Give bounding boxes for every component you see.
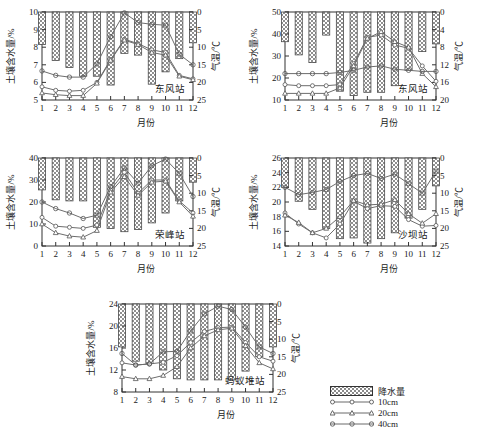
svg-text:1: 1 (40, 249, 45, 259)
svg-text:5: 5 (95, 103, 100, 113)
svg-text:月份: 月份 (137, 263, 155, 274)
svg-text:2: 2 (133, 395, 138, 405)
svg-text:3: 3 (67, 249, 72, 259)
svg-text:7: 7 (122, 103, 127, 113)
legend-item-precipitation: 降水量 (330, 386, 480, 396)
svg-text:9: 9 (150, 103, 155, 113)
svg-text:土壤含水量/%: 土壤含水量/% (248, 174, 259, 230)
svg-text:气温/℃: 气温/℃ (453, 187, 464, 217)
svg-text:8: 8 (136, 103, 141, 113)
svg-text:10: 10 (404, 103, 414, 113)
svg-text:25: 25 (197, 95, 207, 105)
svg-text:10: 10 (272, 95, 282, 105)
svg-text:东风站: 东风站 (398, 83, 428, 94)
svg-text:9: 9 (393, 249, 398, 259)
triangle-marker-line-icon (330, 408, 374, 418)
svg-text:12: 12 (109, 365, 118, 375)
svg-text:1: 1 (120, 395, 125, 405)
svg-text:气温/℃: 气温/℃ (290, 333, 301, 363)
svg-text:4: 4 (324, 103, 329, 113)
svg-text:30: 30 (272, 51, 282, 61)
legend-item-10cm: 10cm (330, 397, 480, 407)
svg-text:月份: 月份 (137, 117, 155, 128)
svg-text:16: 16 (440, 77, 450, 87)
svg-text:14: 14 (272, 241, 282, 251)
svg-text:8: 8 (440, 42, 445, 52)
svg-text:2: 2 (296, 249, 301, 259)
svg-text:5: 5 (338, 249, 343, 259)
svg-text:5: 5 (338, 103, 343, 113)
svg-text:月份: 月份 (380, 117, 398, 128)
svg-text:12: 12 (189, 103, 198, 113)
svg-text:24: 24 (109, 299, 119, 309)
svg-text:10: 10 (29, 219, 39, 229)
svg-text:10: 10 (161, 103, 171, 113)
svg-text:20: 20 (440, 223, 450, 233)
subplot-rongfeng: 0102030400510152025123456789101112土壤含水量/… (0, 146, 240, 292)
svg-text:0: 0 (34, 241, 39, 251)
svg-text:7: 7 (365, 103, 370, 113)
svg-text:2: 2 (53, 249, 58, 259)
svg-text:2: 2 (296, 103, 301, 113)
svg-text:9: 9 (34, 25, 39, 35)
svg-text:气温/℃: 气温/℃ (210, 41, 221, 71)
svg-text:20: 20 (272, 197, 282, 207)
svg-text:7: 7 (122, 249, 127, 259)
svg-text:12: 12 (269, 395, 278, 405)
svg-text:6: 6 (188, 395, 193, 405)
svg-text:25: 25 (277, 387, 287, 397)
svg-text:8: 8 (379, 103, 384, 113)
svg-text:4: 4 (440, 25, 445, 35)
svg-text:16: 16 (109, 343, 119, 353)
svg-text:沙坝站: 沙坝站 (398, 229, 428, 240)
subplot-dongfeng-1: 56789100510152025123456789101112土壤含水量/%气… (0, 0, 240, 146)
svg-text:11: 11 (175, 249, 184, 259)
svg-text:10: 10 (29, 7, 39, 17)
legend-label-precipitation: 降水量 (378, 385, 405, 398)
svg-text:0: 0 (197, 7, 202, 17)
svg-text:15: 15 (197, 206, 207, 216)
svg-text:0: 0 (440, 153, 445, 163)
svg-text:12: 12 (432, 249, 441, 259)
svg-text:6: 6 (34, 77, 39, 87)
svg-text:40: 40 (29, 153, 39, 163)
hatched-bar-swatch-icon (330, 386, 374, 397)
svg-text:5: 5 (95, 249, 100, 259)
svg-text:9: 9 (393, 103, 398, 113)
legend-label-20cm: 20cm (378, 408, 398, 418)
svg-text:5: 5 (197, 171, 202, 181)
svg-text:16: 16 (272, 226, 282, 236)
svg-text:8: 8 (216, 395, 221, 405)
svg-text:12: 12 (189, 249, 198, 259)
svg-text:2: 2 (53, 103, 58, 113)
svg-text:20: 20 (197, 223, 207, 233)
svg-text:6: 6 (108, 249, 113, 259)
svg-text:15: 15 (440, 206, 450, 216)
svg-text:20: 20 (197, 77, 207, 87)
svg-text:20: 20 (440, 95, 450, 105)
svg-text:1: 1 (283, 103, 288, 113)
svg-text:8: 8 (136, 249, 141, 259)
svg-text:9: 9 (150, 249, 155, 259)
svg-text:气温/℃: 气温/℃ (453, 41, 464, 71)
svg-text:50: 50 (272, 7, 282, 17)
svg-text:3: 3 (310, 249, 315, 259)
svg-text:10: 10 (197, 188, 207, 198)
svg-text:10: 10 (440, 188, 450, 198)
svg-text:20: 20 (29, 197, 39, 207)
svg-text:5: 5 (277, 317, 282, 327)
legend-label-10cm: 10cm (378, 397, 398, 407)
svg-text:12: 12 (432, 103, 441, 113)
svg-text:20: 20 (109, 321, 119, 331)
svg-text:8: 8 (379, 249, 384, 259)
svg-text:20: 20 (272, 73, 282, 83)
svg-text:25: 25 (197, 241, 207, 251)
circle-open-marker-line-icon (330, 419, 374, 429)
svg-text:24: 24 (272, 168, 282, 178)
svg-text:3: 3 (310, 103, 315, 113)
svg-text:11: 11 (255, 395, 264, 405)
circle-marker-line-icon (330, 397, 374, 407)
svg-text:6: 6 (351, 103, 356, 113)
svg-text:7: 7 (34, 60, 39, 70)
svg-text:6: 6 (351, 249, 356, 259)
